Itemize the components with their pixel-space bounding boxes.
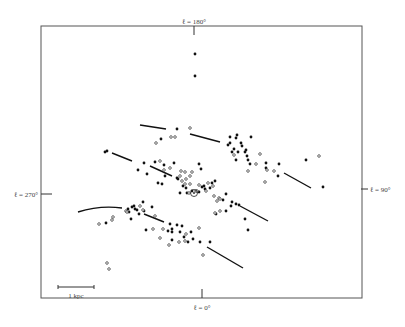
arm-segment: [112, 153, 132, 161]
filled-point: [231, 151, 234, 154]
filled-point: [194, 75, 197, 78]
open-point: [185, 233, 188, 236]
label-l180: ℓ = 180°: [182, 18, 206, 26]
open-point: [214, 212, 217, 215]
filled-point: [183, 236, 186, 239]
arm-curve: [78, 207, 122, 212]
open-point: [264, 181, 267, 184]
filled-point: [241, 145, 244, 148]
filled-point: [247, 229, 250, 232]
open-point: [98, 223, 101, 226]
open-point: [181, 180, 184, 183]
filled-point: [225, 210, 228, 213]
filled-point: [200, 168, 203, 171]
filled-point: [194, 53, 197, 56]
filled-point: [105, 222, 108, 225]
filled-point: [237, 151, 240, 154]
open-point: [142, 209, 145, 212]
filled-point: [249, 163, 252, 166]
open-point: [154, 215, 157, 218]
axis-ticks: [41, 26, 368, 298]
filled-point: [190, 231, 193, 234]
filled-point: [278, 163, 281, 166]
filled-points: [104, 53, 325, 244]
filled-point: [146, 173, 149, 176]
filled-point: [176, 224, 179, 227]
open-point: [247, 170, 250, 173]
open-point: [202, 254, 205, 257]
open-point: [126, 211, 129, 214]
open-point: [233, 154, 236, 157]
sun-marker-icon: [191, 190, 198, 197]
filled-point: [246, 155, 249, 158]
filled-point: [142, 201, 145, 204]
filled-point: [154, 161, 157, 164]
filled-point: [250, 136, 253, 139]
filled-point: [143, 162, 146, 165]
filled-point: [247, 159, 250, 162]
open-point: [184, 240, 187, 243]
filled-point: [209, 187, 212, 190]
filled-point: [244, 218, 247, 221]
filled-point: [136, 209, 139, 212]
open-point: [189, 175, 192, 178]
arm-segment: [284, 173, 311, 188]
open-point: [259, 153, 262, 156]
open-point: [174, 136, 177, 139]
open-point: [266, 169, 269, 172]
filled-point: [137, 169, 140, 172]
open-point: [189, 183, 192, 186]
scale-bar: [58, 285, 94, 289]
filled-point: [203, 185, 206, 188]
filled-point: [222, 199, 225, 202]
open-point: [216, 200, 219, 203]
filled-point: [225, 193, 228, 196]
arm-segment: [207, 247, 243, 268]
open-point: [213, 195, 216, 198]
open-point: [112, 216, 115, 219]
filled-point: [130, 218, 133, 221]
arm-segment: [140, 125, 166, 129]
label-l90: ℓ = 90°: [370, 186, 391, 194]
open-point: [219, 210, 222, 213]
filled-point: [176, 128, 179, 131]
open-point: [159, 160, 162, 163]
open-point: [168, 244, 171, 247]
open-point: [198, 184, 201, 187]
open-point: [318, 155, 321, 158]
filled-point: [106, 150, 109, 153]
filled-point: [236, 134, 239, 137]
open-point: [159, 237, 162, 240]
open-point: [163, 169, 166, 172]
open-point: [273, 170, 276, 173]
open-point: [212, 185, 215, 188]
filled-point: [209, 241, 212, 244]
filled-point: [199, 241, 202, 244]
open-point: [191, 171, 194, 174]
open-point: [180, 170, 183, 173]
filled-point: [179, 192, 182, 195]
filled-point: [231, 201, 234, 204]
filled-point: [240, 142, 243, 145]
filled-point: [160, 138, 163, 141]
filled-point: [322, 186, 325, 189]
open-point: [198, 227, 201, 230]
filled-point: [138, 213, 141, 216]
label-l270: ℓ = 270°: [14, 191, 38, 199]
filled-point: [305, 159, 308, 162]
open-point: [169, 167, 172, 170]
label-l0: ℓ = 0°: [193, 304, 210, 312]
open-point: [185, 178, 188, 181]
filled-point: [145, 229, 148, 232]
filled-point: [235, 203, 238, 206]
filled-point: [235, 137, 238, 140]
filled-point: [198, 163, 201, 166]
open-point: [205, 190, 208, 193]
open-point: [189, 127, 192, 130]
filled-point: [167, 230, 170, 233]
filled-point: [133, 205, 136, 208]
open-point: [184, 171, 187, 174]
filled-point: [164, 175, 167, 178]
filled-point: [169, 223, 172, 226]
filled-point: [227, 144, 230, 147]
